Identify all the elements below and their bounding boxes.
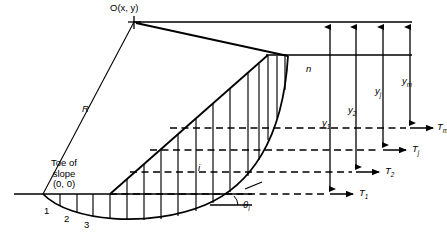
- slice-3-label: 3: [84, 220, 89, 231]
- radius-label: R: [82, 104, 89, 115]
- slope-stability-figure: O(x, y) R Toe of slope (0, 0) 1 2 3 i n …: [0, 0, 447, 243]
- t-force-arrows: [330, 128, 433, 194]
- Tj-label: Tj: [412, 144, 419, 156]
- slice-2-label: 2: [64, 214, 69, 225]
- ym-subscript: m: [407, 81, 412, 88]
- T2-label: T2: [385, 166, 394, 178]
- center-point-label: O(x, y): [110, 3, 139, 14]
- Tj-subscript: j: [418, 149, 419, 156]
- y-ordinate-arrows: [330, 55, 410, 189]
- yj-label: yj: [375, 86, 381, 98]
- y1-subscript: 1: [327, 123, 331, 130]
- T2-subscript: 2: [391, 171, 395, 178]
- theta-label: θi: [243, 200, 250, 212]
- y2-subscript: 2: [353, 110, 357, 117]
- toe-origin-coords: (0, 0): [32, 179, 96, 190]
- Tm-subscript: m: [443, 127, 447, 134]
- ym-label: ym: [402, 76, 412, 88]
- slope-face-line: [110, 55, 268, 194]
- theta-subscript: i: [248, 205, 249, 212]
- T1-subscript: 1: [365, 193, 369, 200]
- y2-label: y2: [348, 105, 356, 117]
- T1-label: T1: [359, 188, 368, 200]
- Tm-label: Tm: [437, 122, 447, 134]
- radius-line-right: [136, 23, 288, 56]
- center-crosshair-icon: [128, 16, 141, 29]
- diagram-canvas: [0, 0, 447, 243]
- slice-n-label: n: [306, 64, 311, 75]
- y1-label: y1: [322, 118, 330, 130]
- theta-arc: [234, 196, 238, 205]
- slice-i-label: i: [198, 163, 200, 174]
- toe-of-slope-label: Toe of slope (0, 0): [32, 158, 96, 190]
- upward-arrows: [330, 27, 410, 55]
- theta-tangent-tick: [245, 182, 262, 189]
- yj-subscript: j: [380, 91, 381, 98]
- slice-1-label: 1: [44, 206, 49, 217]
